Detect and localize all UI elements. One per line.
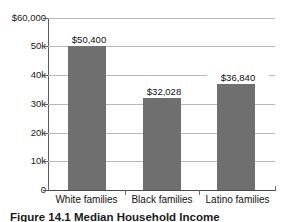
plot-area: $50,400 $32,028 $36,840: [48, 18, 275, 190]
bar-black-families[interactable]: [143, 98, 181, 190]
y-tick-label-0: 0: [4, 185, 46, 195]
bar-value-white-families: $50,400: [58, 34, 120, 45]
x-label-latino-families: Latino families: [199, 194, 276, 206]
gridline-60000: [48, 18, 275, 19]
bar-value-latino-families: $36,840: [207, 72, 269, 83]
x-label-white-families: White families: [48, 194, 125, 206]
y-tick-label-60000: $60,000: [4, 13, 46, 23]
y-tick-label-10k: 10k: [4, 156, 46, 166]
x-label-black-families: Black families: [125, 194, 199, 206]
figure-caption: Figure 14.1 Median Household Income: [10, 211, 272, 222]
y-tick-label-50k: 50k: [4, 41, 46, 51]
bar-white-families[interactable]: [68, 46, 106, 190]
y-tick-label-20k: 20k: [4, 128, 46, 138]
y-tick-label-40k: 40k: [4, 70, 46, 80]
y-tick-label-30k: 30k: [4, 99, 46, 109]
x-axis-start-tick: [48, 186, 49, 191]
bar-latino-families[interactable]: [217, 84, 255, 190]
x-axis-end-tick: [275, 186, 276, 191]
bar-value-black-families: $32,028: [133, 86, 195, 97]
x-axis-line: [48, 190, 276, 191]
figure-container: $60,000 50k 40k 30k 20k 10k 0 $50,400 $3…: [0, 0, 282, 222]
